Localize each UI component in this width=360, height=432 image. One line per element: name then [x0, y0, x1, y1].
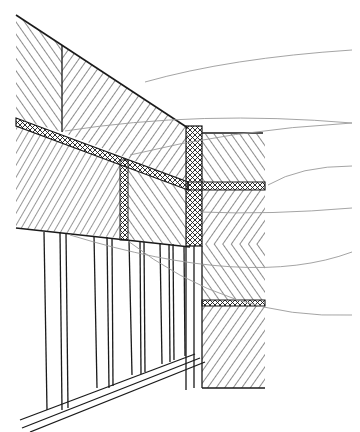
drawing-canvas [0, 0, 360, 432]
leader-line-4 [268, 166, 352, 185]
leader-line-1 [145, 50, 352, 82]
right-wall [202, 133, 265, 388]
corner-column [186, 126, 202, 390]
middle-column-strip [120, 160, 128, 240]
architectural-drawing [0, 0, 360, 432]
